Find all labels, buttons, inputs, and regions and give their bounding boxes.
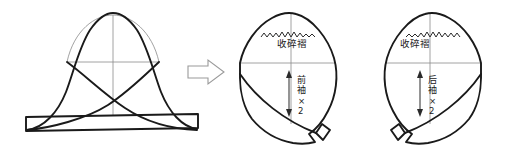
back-piece-gather-label: 收碎褶 xyxy=(400,38,430,49)
back-piece-name-char-1: 后 xyxy=(428,75,437,85)
back-piece-text-group: 收碎褶 后 袖 × 2 xyxy=(400,38,437,117)
front-piece-gather-zigzag xyxy=(261,32,315,37)
back-piece-quantity-number: 2 xyxy=(429,106,434,116)
front-piece-name-char-1: 前 xyxy=(297,74,306,85)
front-piece-gather-label: 收碎褶 xyxy=(277,38,307,49)
back-piece-hem-line xyxy=(405,74,481,133)
back-piece-dimension-arrow xyxy=(417,70,423,117)
sleeve-block-draft-panel xyxy=(26,13,198,131)
diagram-canvas: 收碎褶 前 袖 × 2 xyxy=(0,0,521,149)
draft-cap-outline xyxy=(27,13,197,130)
pattern-diagram-figure: 收碎褶 前 袖 × 2 xyxy=(0,0,521,149)
right-block-arrow-icon xyxy=(188,60,224,84)
front-sleeve-piece-panel: 收碎褶 前 袖 × 2 xyxy=(240,13,336,144)
front-piece-quantity-number: 2 xyxy=(298,106,303,116)
front-piece-quantity-symbol: × xyxy=(298,96,305,106)
back-piece-name-char-2: 袖 xyxy=(428,84,437,95)
back-piece-gather-zigzag xyxy=(406,32,460,37)
back-piece-quantity-symbol: × xyxy=(429,96,436,106)
front-piece-name-char-2: 袖 xyxy=(297,84,306,95)
